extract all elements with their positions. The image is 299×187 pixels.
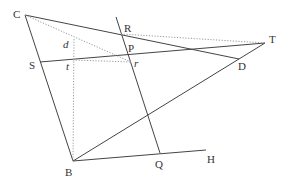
geometry-diagram: C R P r T D S d t B Q H <box>0 0 299 187</box>
line-RQ <box>116 17 160 153</box>
label-D: D <box>238 60 246 72</box>
dotted-dB <box>73 39 74 161</box>
dotted-Cr <box>25 15 131 62</box>
label-C: C <box>13 8 20 20</box>
label-R: R <box>124 22 132 34</box>
label-S: S <box>29 59 35 71</box>
label-d: d <box>63 38 69 50</box>
dotted-RT <box>121 34 265 43</box>
label-T: T <box>269 33 276 45</box>
line-CB <box>25 15 73 161</box>
label-r: r <box>134 57 139 69</box>
label-P: P <box>128 42 134 54</box>
label-H: H <box>207 153 215 165</box>
label-t: t <box>66 60 70 72</box>
label-Q: Q <box>155 158 163 170</box>
line-BH <box>73 150 206 161</box>
label-B: B <box>65 166 72 178</box>
dotted-tr <box>73 60 131 62</box>
